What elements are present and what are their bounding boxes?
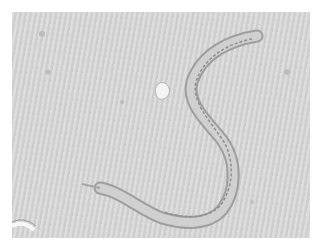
nematode	[82, 36, 257, 222]
edge-artifact	[12, 224, 34, 230]
debris-specks	[39, 31, 290, 204]
bubble-blob	[155, 82, 169, 99]
micrograph-image	[12, 12, 310, 238]
